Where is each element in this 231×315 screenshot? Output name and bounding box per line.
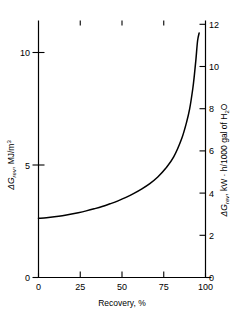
left-axis-unit: MJ/m	[6, 144, 16, 165]
bottom-tick-label-100: 100	[198, 282, 213, 292]
right-tick-label-2: 2	[209, 231, 214, 241]
right-tick-label-10: 10	[209, 62, 219, 72]
data-curve-reversible-free-energy	[39, 33, 200, 218]
bottom-axis-ticks	[39, 272, 206, 278]
svg-text:ΔGrev, kW · h/1000 gal of H2O: ΔGrev, kW · h/1000 gal of H2O	[219, 103, 230, 217]
y-axis-title-left: ΔGrev, MJ/m3	[6, 140, 17, 191]
right-axis-unit-tail: O	[219, 103, 229, 110]
y-axis-title-right: ΔGrev, kW · h/1000 gal of H2O	[219, 103, 230, 217]
frame-path	[39, 21, 206, 278]
right-tick-label-4: 4	[209, 189, 214, 199]
bottom-tick-label-25: 25	[75, 282, 85, 292]
left-tick-label-10: 10	[20, 48, 30, 58]
bottom-tick-label-0: 0	[36, 282, 41, 292]
bottom-tick-label-50: 50	[117, 282, 127, 292]
top-axis-ticks	[80, 21, 164, 26]
right-axis-unit: kW · h/1000 gal of H	[219, 114, 229, 191]
chart-figure: 0 5 10 0 2 4 6 8 10 12 0 25 50 75 100 Re…	[0, 0, 231, 315]
right-tick-labels: 0 2 4 6 8 10 12	[209, 20, 219, 283]
left-axis-symbol: ΔG	[6, 177, 16, 191]
right-tick-label-12: 12	[209, 20, 219, 30]
svg-text:ΔGrev, MJ/m3: ΔGrev, MJ/m3	[6, 140, 17, 191]
right-axis-symbol: ΔG	[219, 204, 229, 218]
chart-canvas: 0 5 10 0 2 4 6 8 10 12 0 25 50 75 100 Re…	[0, 0, 231, 315]
right-tick-label-8: 8	[209, 104, 214, 114]
left-tick-label-0: 0	[25, 273, 30, 283]
plot-frame	[39, 21, 206, 278]
x-axis-title: Recovery, %	[98, 298, 146, 308]
left-axis-unit-exponent: 3	[6, 140, 12, 144]
left-tick-labels: 0 5 10	[20, 48, 30, 283]
bottom-tick-labels: 0 25 50 75 100	[36, 282, 213, 292]
right-tick-label-6: 6	[209, 146, 214, 156]
bottom-tick-label-75: 75	[159, 282, 169, 292]
left-tick-label-5: 5	[25, 161, 30, 171]
